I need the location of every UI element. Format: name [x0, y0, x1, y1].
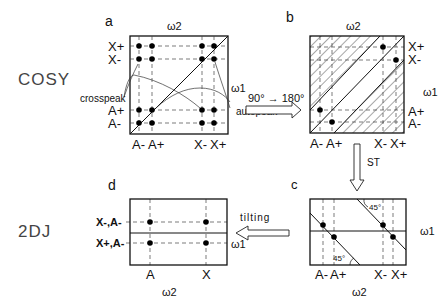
panel-b-ylabel-aminus: A- [408, 116, 421, 131]
diagram-svg: a ω2 [0, 0, 444, 305]
panel-a-xlabel-xplus: X+ [210, 137, 226, 152]
panel-a-ylabel-xminus: X- [108, 52, 121, 67]
arrow-a-to-b-label: 90° → 180° [248, 92, 305, 104]
angle-arc-lower [350, 258, 354, 265]
panel-d-grid [126, 199, 227, 265]
panel-c-xlabel-xplus: X+ [391, 267, 407, 282]
panel-b: b ω2 [286, 9, 438, 151]
panel-c-omega2-label: ω2 [352, 286, 367, 298]
panel-a: a ω2 [80, 13, 278, 152]
nmr-cosy-2dj-diagram: COSY 2DJ a ω2 [0, 0, 444, 305]
panel-c-angle-upper: 45° [369, 203, 381, 212]
panel-a-xlabel-aplus: A+ [148, 137, 164, 152]
panel-a-xlabel-xminus: X- [194, 137, 207, 152]
panel-b-xlabel-aminus: A- [310, 136, 323, 151]
panel-c-xlabel-aminus: A- [315, 267, 328, 282]
panel-b-xlabel-xplus: X+ [390, 136, 406, 151]
panel-d: d X-,A- X+,A- ω1 A X ω2 [96, 177, 246, 298]
panel-d-letter: d [108, 177, 116, 193]
panel-d-xlabel-a: A [146, 267, 155, 282]
panel-d-frame [130, 199, 227, 265]
panel-c-frame [310, 199, 406, 265]
panel-c-letter: c [291, 177, 298, 192]
panel-a-omega2-label: ω2 [167, 20, 182, 32]
angle-arc-upper [364, 199, 368, 207]
panel-c-xlabel-aplus: A+ [330, 267, 346, 282]
arrow-b-to-c-label: ST [367, 157, 380, 168]
panel-c: c 45° 45° ω1 A- [291, 177, 435, 298]
panel-d-omega1-label: ω1 [231, 238, 246, 250]
panel-a-xlabel-aminus: A- [132, 137, 145, 152]
panel-a-diagonal [130, 36, 228, 134]
panel-c-tilted-lines [310, 199, 406, 265]
down-arrow-icon [350, 144, 364, 191]
panel-b-omega2-label: ω2 [346, 20, 361, 32]
panel-b-xlabel-aplus: A+ [326, 136, 342, 151]
panel-c-xlabel-xminus: X- [374, 267, 387, 282]
panel-a-omega1-label: ω1 [231, 82, 246, 94]
panel-b-omega1-label: ω1 [423, 86, 438, 98]
panel-a-peaks [136, 43, 217, 126]
panel-b-ylabel-xminus: X- [408, 52, 421, 67]
panel-a-ylabel-aminus: A- [108, 116, 121, 131]
panel-c-omega1-label: ω1 [420, 225, 435, 237]
arrow-a-to-b: 90° → 180° [246, 92, 305, 118]
arrow-b-to-c: ST [350, 144, 380, 191]
panel-a-letter: a [105, 13, 113, 29]
arrow-c-to-d: tilting [236, 212, 289, 240]
panel-d-xlabel-x: X [202, 267, 211, 282]
panel-d-ylabel-xplus-aminus: X+,A- [96, 237, 125, 249]
panel-c-angle-lower: 45° [333, 254, 345, 263]
panel-d-ylabel-xminus-aminus: X-,A- [96, 216, 122, 228]
arrow-c-to-d-label: tilting [240, 212, 270, 223]
panel-d-omega2-label: ω2 [162, 286, 177, 298]
panel-b-xlabel-xminus: X- [374, 136, 387, 151]
panel-b-letter: b [286, 9, 294, 25]
